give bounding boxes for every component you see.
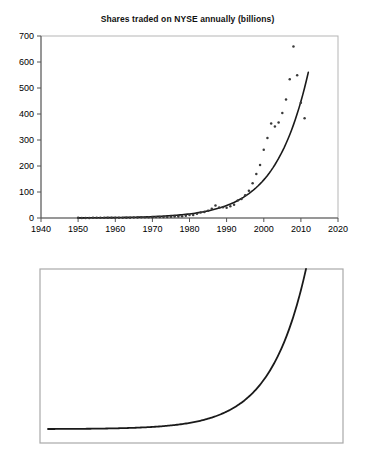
scatter-point xyxy=(222,206,225,209)
scatter-point xyxy=(274,125,277,128)
scatter-point xyxy=(92,217,95,220)
scatter-point xyxy=(292,45,295,48)
scatter-point xyxy=(285,98,288,101)
scatter-point xyxy=(225,206,228,209)
scatter-point xyxy=(211,207,214,210)
y-tick-group: 0 100 200 300 400 500 600 700 xyxy=(19,31,41,223)
scatter-point xyxy=(259,164,262,167)
scatter-point xyxy=(77,217,80,220)
scatter-point xyxy=(95,217,98,220)
scatter-point xyxy=(88,217,91,220)
scatter-point xyxy=(81,217,84,220)
scatter-point xyxy=(196,212,199,215)
scatter-point xyxy=(110,217,113,220)
y-tick-label-500: 500 xyxy=(19,83,34,93)
scatter-point xyxy=(121,217,124,220)
x-tick-label-2010: 2010 xyxy=(291,224,311,234)
x-tick-group: 1940 1950 1960 1970 1980 1990 2000 2010 … xyxy=(31,218,348,234)
scatter-point xyxy=(266,137,269,140)
scatter-point xyxy=(233,203,236,206)
x-tick-label-1990: 1990 xyxy=(217,224,237,234)
scatter-point xyxy=(303,117,306,120)
scatter-point xyxy=(159,216,162,219)
scatter-point xyxy=(136,216,139,219)
scatter-point xyxy=(147,216,150,219)
scatter-point xyxy=(177,215,180,218)
y-tick-label-700: 700 xyxy=(19,31,34,41)
scatter-point xyxy=(140,216,143,219)
chart-shares-traded: Shares traded on NYSE annually (billions… xyxy=(0,0,375,240)
scatter-point xyxy=(277,121,280,124)
y-tick-label-600: 600 xyxy=(19,57,34,67)
rate-plot-area xyxy=(0,240,375,465)
scatter-point xyxy=(133,216,136,219)
rate-plot-frame xyxy=(40,269,343,443)
scatter-point xyxy=(300,102,303,105)
scatter-point xyxy=(263,149,266,152)
y-tick-label-200: 200 xyxy=(19,161,34,171)
scatter-point xyxy=(188,214,191,217)
scatter-point xyxy=(251,182,254,185)
scatter-point xyxy=(181,215,184,218)
scatter-point xyxy=(162,216,165,219)
scatter-point xyxy=(203,211,206,214)
scatter-point xyxy=(99,217,102,220)
scatter-point xyxy=(170,216,173,219)
scatter-point xyxy=(281,112,284,115)
scatter-point xyxy=(199,211,202,214)
chart-rate-of-change: Rate of change xyxy=(0,240,375,465)
x-tick-label-1960: 1960 xyxy=(105,224,125,234)
y-tick-label-0: 0 xyxy=(29,213,34,223)
scatter-point xyxy=(125,216,128,219)
scatter-point xyxy=(237,199,240,202)
scatter-point xyxy=(214,204,217,207)
scatter-point xyxy=(240,198,243,201)
scatter-point xyxy=(103,217,106,220)
scatter-point xyxy=(129,216,132,219)
y-tick-label-300: 300 xyxy=(19,135,34,145)
scatter-point xyxy=(151,216,154,219)
x-tick-label-2000: 2000 xyxy=(254,224,274,234)
x-tick-label-1970: 1970 xyxy=(142,224,162,234)
scatter-point xyxy=(192,214,195,217)
scatter-point xyxy=(244,194,247,197)
scatter-point xyxy=(107,217,110,220)
x-tick-label-1980: 1980 xyxy=(179,224,199,234)
scatter-point xyxy=(207,210,210,213)
scatter-point xyxy=(248,190,251,193)
scatter-point xyxy=(255,173,258,176)
scatter-point xyxy=(114,217,117,220)
scatter-point xyxy=(155,216,158,219)
scatter-point xyxy=(173,215,176,218)
scatter-point xyxy=(288,78,291,81)
x-tick-label-1940: 1940 xyxy=(31,224,51,234)
scatter-point xyxy=(218,206,221,209)
scatter-point xyxy=(270,122,273,125)
scatter-point xyxy=(166,216,169,219)
scatter-point xyxy=(144,216,147,219)
shares-plot-area: 0 100 200 300 400 500 600 700 1940 1950 … xyxy=(0,0,375,240)
scatter-point xyxy=(84,217,87,220)
x-tick-label-2020: 2020 xyxy=(328,224,348,234)
scatter-point xyxy=(296,74,299,77)
y-tick-label-400: 400 xyxy=(19,109,34,119)
scatter-point xyxy=(229,205,232,208)
y-tick-label-100: 100 xyxy=(19,187,34,197)
x-tick-label-1950: 1950 xyxy=(68,224,88,234)
scatter-point xyxy=(185,215,188,218)
scatter-point xyxy=(118,216,121,219)
